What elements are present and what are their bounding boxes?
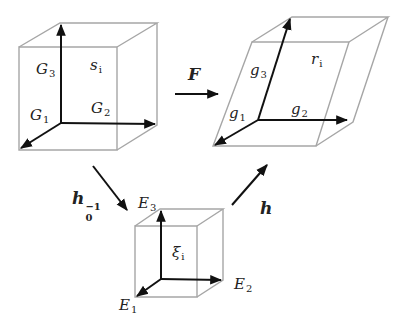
region-label-xi-i: ξi xyxy=(172,245,184,262)
reference-axes xyxy=(21,25,155,148)
diagram-canvas: G3 si G1 G2 F g3 ri g1 g2 h−10 h E3 ξi E… xyxy=(0,0,405,330)
axis-label-E2: E2 xyxy=(234,277,252,294)
map-label-h0-inverse: h−10 xyxy=(72,190,101,223)
current-shape xyxy=(213,17,388,146)
axis-label-G3: G3 xyxy=(36,62,55,79)
region-label-r-i: ri xyxy=(311,52,322,69)
region-label-s-i: si xyxy=(90,58,102,75)
axis-label-g3: g3 xyxy=(250,63,267,80)
axis-label-G2: G2 xyxy=(91,101,110,118)
diagram-graphics xyxy=(0,0,405,330)
map-label-h: h xyxy=(260,200,272,217)
axis-label-G1: G1 xyxy=(30,108,49,125)
axis-label-g1: g1 xyxy=(229,106,246,123)
axis-label-E3: E3 xyxy=(138,196,156,213)
reference-cube xyxy=(19,23,157,150)
axis-label-g2: g2 xyxy=(291,102,308,119)
axis-label-E1: E1 xyxy=(119,298,137,315)
map-label-F: F xyxy=(188,66,200,83)
current-axes xyxy=(215,19,347,145)
